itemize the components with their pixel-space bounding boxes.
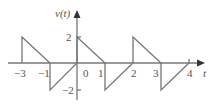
x-axis-label: t	[203, 68, 206, 79]
x-tick-label-2: 2	[131, 68, 137, 79]
x-axis-arrow-icon	[197, 60, 205, 67]
y-axis-arrow-icon	[74, 10, 81, 18]
x-tick-label-1: 1	[98, 68, 104, 79]
x-tick-label-neg1: −1	[38, 68, 50, 79]
y-tick-label-neg2: −2	[62, 85, 74, 96]
x-tick-label-0: 0	[83, 68, 89, 79]
x-tick-label-3: 3	[153, 68, 159, 79]
y-tick-label-2: 2	[66, 32, 72, 43]
waveform-plot	[0, 0, 215, 106]
y-axis-label: v(t)	[55, 8, 70, 19]
x-tick-label-neg3: −3	[14, 68, 26, 79]
x-tick-label-4: 4	[187, 68, 193, 79]
